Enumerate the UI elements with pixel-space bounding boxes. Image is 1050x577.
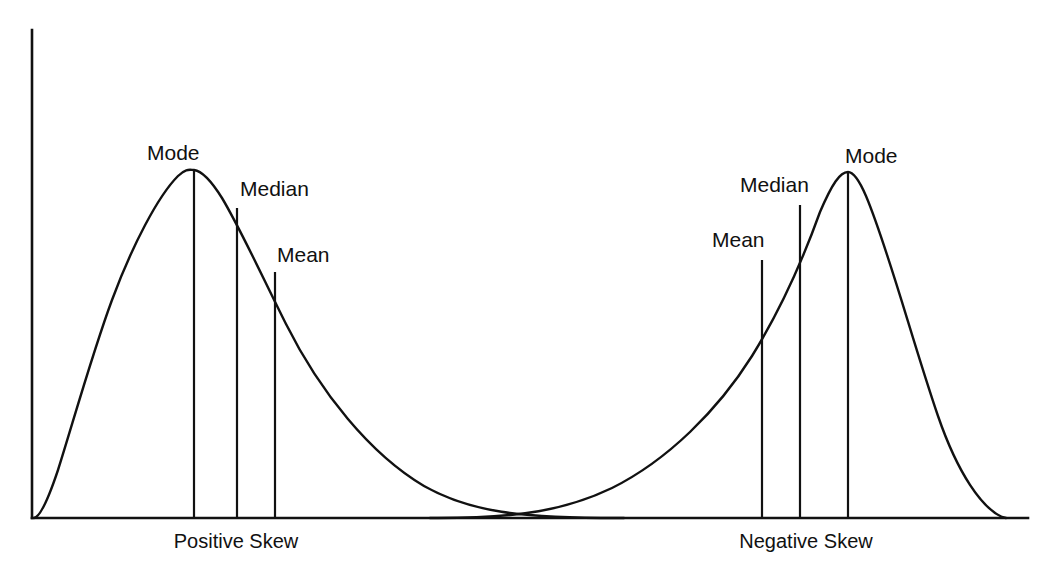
axes-group (32, 30, 1028, 518)
captions-group: Positive Skew Negative Skew (174, 530, 874, 552)
distribution-chart-svg: Mode Median Mean Mean Median Mode Positi… (0, 0, 1050, 577)
negative-skew-labels: Mean Median Mode (712, 144, 898, 251)
negative-skew-markers (762, 172, 848, 518)
label-median-positive: Median (240, 177, 309, 200)
positive-skew-labels: Mode Median Mean (147, 141, 330, 266)
caption-negative-skew: Negative Skew (739, 530, 873, 552)
label-mean-positive: Mean (277, 243, 330, 266)
positive-skew-curve-group (34, 170, 624, 518)
negative-skew-curve-group (430, 172, 1006, 518)
negative-skew-curve (430, 172, 1006, 518)
label-mean-negative: Mean (712, 228, 765, 251)
label-mode-positive: Mode (147, 141, 200, 164)
label-mode-negative: Mode (845, 144, 898, 167)
label-median-negative: Median (740, 173, 809, 196)
caption-positive-skew: Positive Skew (174, 530, 299, 552)
skewness-figure: Mode Median Mean Mean Median Mode Positi… (0, 0, 1050, 577)
positive-skew-curve (34, 170, 624, 518)
